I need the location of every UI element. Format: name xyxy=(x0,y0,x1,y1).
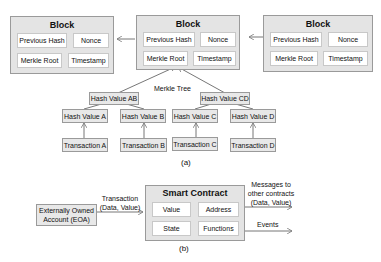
previous-hash-cell: Previous Hash xyxy=(143,32,195,47)
merkle-tree-label: Merkle Tree xyxy=(154,84,191,93)
previous-hash-cell: Previous Hash xyxy=(17,33,67,48)
address-cell: Address xyxy=(198,202,239,217)
block-title: Block xyxy=(11,20,113,30)
state-cell: State xyxy=(152,221,191,236)
nonce-cell: Nonce xyxy=(73,33,109,48)
timestamp-cell: Timestamp xyxy=(193,51,236,66)
hash-value-c: Hash Value C xyxy=(172,109,218,123)
eoa-box: Externally Owned Account (EOA) xyxy=(36,204,97,226)
block-middle: Block Previous Hash Nonce Merkle Root Ti… xyxy=(136,15,240,70)
hash-value-b: Hash Value B xyxy=(120,109,166,123)
functions-cell: Functions xyxy=(198,221,239,236)
eoa-line2: Account (EOA) xyxy=(43,215,90,224)
block-right: Block Previous Hash Nonce Merkle Root Ti… xyxy=(263,15,373,72)
block-title: Block xyxy=(264,19,372,29)
merkle-root-cell: Merkle Root xyxy=(270,51,318,66)
hash-value-d: Hash Value D xyxy=(230,109,276,123)
transaction-label-line2: (Data, Value) xyxy=(98,203,142,212)
transaction-label: Transaction (Data, Value) xyxy=(98,194,142,212)
nonce-cell: Nonce xyxy=(200,32,236,47)
events-label: Events xyxy=(257,220,278,229)
previous-hash-cell: Previous Hash xyxy=(270,32,322,47)
hash-value-ab: Hash Value AB xyxy=(89,92,139,105)
hash-value-a: Hash Value A xyxy=(62,109,108,123)
hash-value-cd: Hash Value CD xyxy=(200,92,250,105)
timestamp-cell: Timestamp xyxy=(68,53,109,68)
transaction-label-line1: Transaction xyxy=(98,194,142,203)
timestamp-cell: Timestamp xyxy=(323,51,368,66)
transaction-b: Transaction B xyxy=(120,138,167,152)
messages-label-line2: other contracts xyxy=(247,189,295,198)
merkle-root-cell: Merkle Root xyxy=(143,51,188,66)
caption-a: (a) xyxy=(181,158,191,167)
caption-b: (b) xyxy=(179,244,189,253)
smart-contract-title: Smart Contract xyxy=(146,188,244,198)
transaction-d: Transaction D xyxy=(230,138,276,152)
smart-contract-block: Smart Contract Value Address State Funct… xyxy=(145,185,245,241)
transaction-c: Transaction C xyxy=(172,137,218,151)
eoa-line1: Externally Owned xyxy=(39,206,94,215)
block-left: Block Previous Hash Nonce Merkle Root Ti… xyxy=(10,16,114,74)
messages-label: Messages to other contracts (Data, Value… xyxy=(247,180,295,207)
nonce-cell: Nonce xyxy=(328,32,368,47)
messages-label-line1: Messages to xyxy=(247,180,295,189)
transaction-a: Transaction A xyxy=(62,138,108,152)
block-title: Block xyxy=(137,19,239,29)
messages-label-line3: (Data, Value) xyxy=(247,198,295,207)
value-cell: Value xyxy=(152,202,191,217)
merkle-root-cell: Merkle Root xyxy=(17,53,62,68)
